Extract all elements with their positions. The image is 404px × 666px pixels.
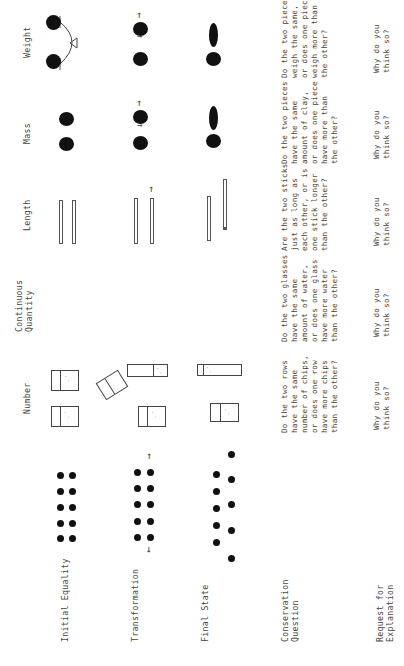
question-mass: Do the two pieces have the same amount o… [280, 81, 340, 164]
chip [57, 488, 64, 495]
chip [213, 505, 220, 512]
clay-ball [206, 134, 221, 148]
chip [213, 539, 220, 546]
chip [147, 485, 154, 492]
row-label-final-state: Final State [200, 584, 210, 642]
chip [147, 518, 154, 525]
clay-ball [59, 112, 74, 126]
chip [147, 469, 154, 476]
chip [213, 488, 220, 495]
glass-pouring [96, 370, 129, 401]
stick [207, 196, 211, 241]
chip [57, 504, 64, 511]
column-header-weight: Weight [22, 27, 32, 58]
row-label-initial-equality: Initial Equality [60, 558, 70, 642]
stick [150, 198, 154, 244]
explanation-continuous-quantity: Why do you think so? [372, 288, 392, 337]
chip [57, 472, 64, 479]
row-label-transformation: Transformation [130, 569, 140, 642]
column-header-number: Number [22, 383, 32, 414]
glass-tall-thin: ˊˏ [197, 364, 242, 376]
row-label-conservation-question: Conservation Question [280, 579, 300, 642]
chip [228, 527, 235, 534]
clay-sausage [209, 106, 218, 130]
chip [213, 522, 220, 529]
chip [69, 472, 76, 479]
chip [134, 518, 141, 525]
chip [134, 485, 141, 492]
chip [57, 520, 64, 527]
clay-ball [133, 136, 148, 150]
arrow-up-icon: ↑ [148, 184, 154, 194]
arrow-up-icon: ↑ [136, 98, 142, 108]
chip [69, 520, 76, 527]
question-continuous-quantity: Do the two glasses have the same amount … [280, 254, 340, 342]
clay-ball [133, 52, 148, 66]
stick [59, 200, 63, 244]
question-weight: Do the two pieces weigh the same, or doe… [280, 0, 330, 78]
explanation-weight: Why do you think so? [372, 24, 392, 73]
arrow-right-icon: → [137, 120, 142, 130]
stick [223, 179, 227, 228]
chip [57, 535, 64, 542]
chip [69, 535, 76, 542]
chip [228, 555, 235, 562]
explanation-mass: Why do you think so? [372, 110, 392, 159]
explanation-number: Why do you think so? [372, 381, 392, 430]
chip [228, 501, 235, 508]
clay-sausage [209, 23, 218, 47]
chip [147, 501, 154, 508]
explanation-length: Why do you think so? [372, 197, 392, 246]
row-label-request-for-explanation: Request for Explanation [375, 584, 395, 642]
chip [213, 471, 220, 478]
chip [228, 476, 235, 483]
question-number: Do the two rows have the same number of … [280, 355, 340, 433]
arrow-up-icon: ↑ [146, 451, 152, 461]
glass: ˊˏ [138, 406, 166, 427]
chip [69, 504, 76, 511]
glass: ˊˏ [51, 406, 79, 427]
stick [223, 228, 227, 230]
clay-ball [59, 137, 74, 151]
arrow-down-icon: ↑ [146, 545, 152, 555]
chip [134, 469, 141, 476]
column-header-continuous-quantity: Continuous Quantity [14, 280, 34, 332]
glass-tall-thin: ˊˏ [127, 364, 168, 377]
chip [228, 451, 235, 458]
glass: ˊˏ [51, 370, 79, 391]
stick [72, 200, 76, 244]
clay-ball [46, 54, 61, 69]
chip [147, 534, 154, 541]
chip [69, 488, 76, 495]
arrow-right-icon: → [137, 31, 142, 41]
chip [134, 501, 141, 508]
column-header-mass: Mass [22, 123, 32, 144]
chip [134, 534, 141, 541]
clay-ball [206, 52, 221, 66]
column-header-length: Length [22, 200, 32, 231]
clay-ball [46, 15, 61, 30]
question-length: Are the two sticks just as long as each … [280, 163, 330, 251]
arrow-up-icon: ↑ [136, 10, 142, 20]
stick [134, 198, 138, 244]
glass: ˊˏ [210, 403, 239, 422]
